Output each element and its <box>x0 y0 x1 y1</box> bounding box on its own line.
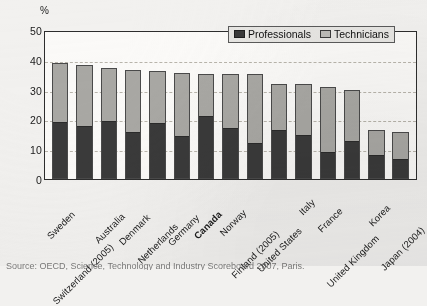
bar-slot <box>194 32 218 179</box>
bar-slot <box>291 32 315 179</box>
bar-segment-professionals <box>77 126 92 178</box>
y-axis-tick-0: 0 <box>16 174 42 186</box>
bar-segment-professionals <box>321 152 336 178</box>
bar-segment-professionals <box>272 130 287 178</box>
bar-segment-technicians <box>126 71 141 132</box>
filled-dark-square-icon <box>234 30 245 38</box>
bar-segment-professionals <box>393 159 408 178</box>
bar-series-group <box>45 32 416 179</box>
bar-slot <box>145 32 169 179</box>
outlined-light-square-icon <box>320 30 331 38</box>
x-axis-label-norway: Norway <box>217 207 248 238</box>
legend-item-technicians: Technicians <box>320 28 389 40</box>
bar-slot <box>218 32 242 179</box>
y-axis-tick-50: 50 <box>16 25 42 37</box>
bar-segment-professionals <box>223 128 238 178</box>
stacked-bar[interactable] <box>174 73 191 179</box>
stacked-bar[interactable] <box>368 130 385 179</box>
bar-segment-professionals <box>102 121 117 178</box>
x-axis-label-france: France <box>316 205 345 234</box>
x-axis-label-japan-2004: Japan (2004) <box>378 224 426 272</box>
y-axis-tick-40: 40 <box>16 55 42 67</box>
stacked-bar[interactable] <box>101 68 118 179</box>
bar-slot <box>72 32 96 179</box>
stacked-bar[interactable] <box>392 132 409 179</box>
bar-segment-technicians <box>272 85 287 130</box>
legend-label-professionals: Professionals <box>248 28 311 40</box>
legend-item-professionals: Professionals <box>234 28 311 40</box>
bar-segment-technicians <box>321 88 336 152</box>
stacked-bar[interactable] <box>149 71 166 179</box>
stacked-bar[interactable] <box>125 70 142 179</box>
bar-segment-technicians <box>199 75 214 116</box>
y-axis-tick-labels: 50403020100 <box>10 0 42 266</box>
bar-slot <box>243 32 267 179</box>
bar-segment-professionals <box>345 141 360 178</box>
bar-segment-professionals <box>369 155 384 178</box>
stacked-bar[interactable] <box>52 63 69 179</box>
bar-slot <box>48 32 72 179</box>
stacked-bar[interactable] <box>222 74 239 179</box>
bar-segment-technicians <box>150 72 165 122</box>
bar-segment-professionals <box>199 116 214 178</box>
bar-segment-technicians <box>223 75 238 129</box>
bar-segment-professionals <box>248 143 263 178</box>
bar-segment-professionals <box>150 123 165 178</box>
stacked-bar[interactable] <box>320 87 337 179</box>
chart-legend: Professionals Technicians <box>228 26 395 43</box>
bar-slot <box>121 32 145 179</box>
bar-segment-professionals <box>175 136 190 178</box>
y-axis-tick-20: 20 <box>16 114 42 126</box>
bar-segment-professionals <box>53 122 68 179</box>
stacked-bar[interactable] <box>295 84 312 179</box>
stacked-bar[interactable] <box>271 84 288 179</box>
bar-segment-professionals <box>126 132 141 178</box>
bar-slot <box>97 32 121 179</box>
bar-segment-technicians <box>175 74 190 135</box>
x-axis-label-united-kingdom: United Kingdom <box>324 233 381 290</box>
source-note: Source: OECD, Science, Technology and In… <box>6 261 305 270</box>
x-axis-label-switzerland-2005: Switzerland (2005) <box>50 241 115 306</box>
stacked-bar[interactable] <box>198 74 215 179</box>
stacked-bar[interactable] <box>344 90 361 179</box>
y-axis-tick-30: 30 <box>16 85 42 97</box>
bar-segment-technicians <box>77 66 92 126</box>
x-axis-label-korea: Korea <box>367 202 393 228</box>
bar-slot <box>364 32 388 179</box>
x-axis-label-italy: Italy <box>296 197 316 217</box>
bar-slot <box>389 32 413 179</box>
bar-slot <box>267 32 291 179</box>
stacked-bar[interactable] <box>76 65 93 179</box>
plot-area <box>44 31 417 180</box>
bar-segment-technicians <box>345 91 360 141</box>
bar-segment-technicians <box>102 69 117 121</box>
x-axis-label-sweden: Sweden <box>45 209 77 241</box>
x-axis-category-labels: SwedenSwitzerland (2005)AustraliaDenmark… <box>44 182 417 266</box>
bar-segment-technicians <box>248 75 263 144</box>
stacked-bar[interactable] <box>247 74 264 179</box>
bar-slot <box>316 32 340 179</box>
bar-segment-technicians <box>393 133 408 160</box>
bar-segment-technicians <box>369 131 384 155</box>
x-axis-label-canada: Canada <box>192 209 224 241</box>
y-axis-tick-10: 10 <box>16 144 42 156</box>
bar-segment-technicians <box>296 85 311 135</box>
legend-label-technicians: Technicians <box>334 28 389 40</box>
bar-segment-technicians <box>53 64 68 121</box>
bar-slot <box>170 32 194 179</box>
bar-segment-professionals <box>296 135 311 178</box>
bar-slot <box>340 32 364 179</box>
